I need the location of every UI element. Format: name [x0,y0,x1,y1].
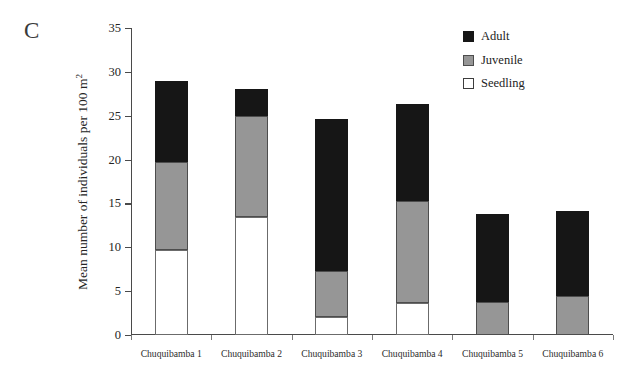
bar-segment-seedling [396,303,429,335]
legend-item-seedling: Seedling [463,72,525,96]
x-tick [372,335,373,340]
bar-segment-juvenile [155,162,188,250]
legend-label-adult: Adult [481,29,509,44]
y-tick [125,116,131,117]
bar-stack [396,104,429,335]
y-tick [125,28,131,29]
bar-segment-seedling [155,250,188,335]
legend-label-seedling: Seedling [481,76,525,91]
y-tick-label: 35 [91,21,121,36]
y-tick [125,160,131,161]
bar-segment-adult [556,211,589,296]
legend: Adult Juvenile Seedling [463,25,525,96]
plot-area: 05101520253035 Chuquibamba 1Chuquibamba … [131,28,613,335]
y-tick [125,247,131,248]
filled-gray-square-icon [463,55,474,66]
legend-item-adult: Adult [463,25,525,49]
bar-segment-juvenile [476,302,509,335]
bar-stack [556,211,589,335]
bar-segment-juvenile [235,116,268,218]
x-tick [211,335,212,340]
x-axis-label: Chuquibamba 6 [521,348,623,359]
y-tick-label: 5 [91,284,121,299]
bar-segment-adult [315,119,348,271]
legend-item-juvenile: Juvenile [463,49,525,73]
x-tick [292,335,293,340]
filled-black-square-icon [463,31,474,42]
open-white-square-icon [463,78,474,89]
y-tick-label: 30 [91,64,121,79]
bar-segment-juvenile [556,296,589,335]
x-tick [533,335,534,340]
y-axis-title-text: Mean number of individuals per 100 m [75,79,90,290]
legend-label-juvenile: Juvenile [481,53,523,68]
bar-segment-adult [396,104,429,200]
y-axis-title-superscript: 2 [74,74,84,79]
y-tick [125,72,131,73]
bar-segment-juvenile [396,201,429,303]
bar-segment-adult [476,214,509,302]
y-tick-label: 10 [91,240,121,255]
y-axis-title: Mean number of individuals per 100 m2 [73,32,93,332]
bar-stack [235,89,268,335]
y-axis-line [131,28,132,335]
y-tick-label: 20 [91,152,121,167]
bar-segment-adult [155,81,188,163]
bar-segment-juvenile [315,271,348,317]
bar-segment-seedling [235,217,268,335]
x-tick [452,335,453,340]
y-tick [125,203,131,204]
panel-label: C [24,18,40,44]
x-tick [613,335,614,340]
y-tick-label: 15 [91,196,121,211]
bar-segment-adult [235,89,268,115]
y-tick-label: 0 [91,328,121,343]
bar-stack [155,81,188,335]
bar-stack [315,119,348,335]
bar-segment-seedling [315,317,348,335]
y-tick [125,291,131,292]
x-tick [131,335,132,340]
figure-panel-c: C Mean number of individuals per 100 m2 … [0,0,623,386]
y-tick-label: 25 [91,108,121,123]
bar-stack [476,214,509,335]
